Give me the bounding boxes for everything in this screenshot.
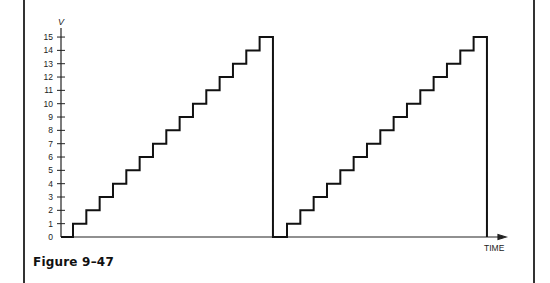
x-axis-arrow-icon	[498, 235, 506, 240]
axes	[61, 28, 506, 240]
staircase-chart	[0, 0, 550, 283]
staircase-waveform	[61, 37, 487, 237]
figure-caption: Figure 9–47	[33, 255, 114, 269]
